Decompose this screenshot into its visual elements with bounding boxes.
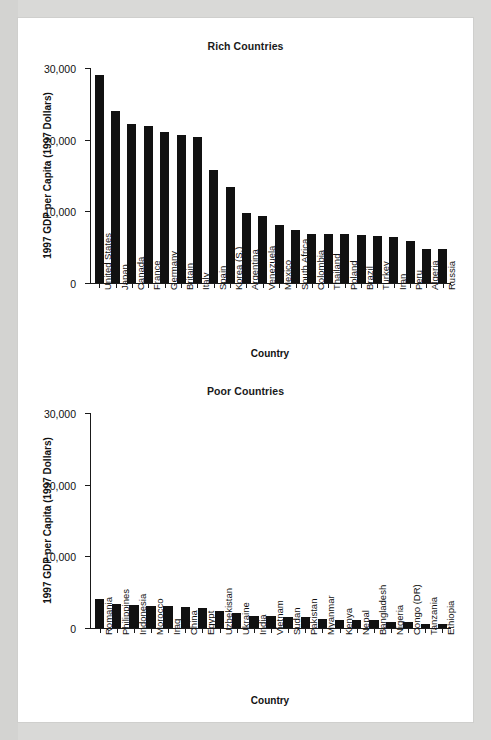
x-tick-label: Egypt [205,611,216,635]
x-tick [117,628,118,633]
x-tick-label: Germany [168,251,179,290]
x-tick [279,283,280,288]
x-tick [443,283,444,288]
x-tick [328,283,329,288]
x-tick [305,628,306,633]
x-tick-label: Myanmar [325,595,336,635]
y-tick: 20,000 [85,485,91,486]
x-tick-label: Mexico [282,260,293,290]
y-tick: 20,000 [85,140,91,141]
x-tick [374,628,375,633]
x-tick [181,283,182,288]
x-tick-label: Thailand [331,254,342,290]
x-tick [134,628,135,633]
x-tick-label: Argentina [249,249,260,290]
x-tick-label: Venezuela [266,246,277,290]
y-tick-label: 20,000 [44,135,76,147]
x-axis-label-poor: Country [90,695,450,706]
x-tick-label: Pakistan [308,599,319,635]
x-tick [202,628,203,633]
x-tick-label: Italy [200,273,211,290]
x-tick [254,628,255,633]
y-tick: 10,000 [85,556,91,557]
x-tick-label: China [188,610,199,635]
x-tick-label: Nepal [360,610,371,635]
x-tick-label: Nigeria [394,605,405,635]
x-tick-label: Philippines [120,589,131,635]
x-tick [271,628,272,633]
x-tick-label: United States [102,233,113,290]
x-tick-label: Turkey [380,261,391,290]
x-tick [148,283,149,288]
x-tick [296,283,297,288]
x-tick-label: Peru [413,270,424,290]
x-tick [185,628,186,633]
x-tick-label: Ukraine [240,602,251,635]
x-tick [340,628,341,633]
y-tick-label: 30,000 [44,408,76,420]
x-tick-label: Morocco [154,599,165,635]
x-tick [214,283,215,288]
y-tick: 10,000 [85,211,91,212]
x-tick [116,283,117,288]
x-tick [165,283,166,288]
x-tick-label: France [151,260,162,290]
x-tick [425,628,426,633]
figure-card: Rich Countries 1997 GDP per Capita (1997… [18,18,473,722]
x-axis-label-rich: Country [90,348,450,359]
y-tick-label: 10,000 [44,551,76,563]
bar [193,137,202,283]
x-tick-label: Bangladesh [377,585,388,635]
x-tick [99,283,100,288]
x-tick [100,628,101,633]
y-tick-label: 30,000 [44,63,76,75]
x-tick-label: Uzbekistan [223,588,234,635]
x-tick [168,628,169,633]
x-tick [410,283,411,288]
x-tick [377,283,378,288]
x-tick [263,283,264,288]
x-tick-label: Sudan [291,608,302,635]
x-tick-label: Japan [119,264,130,290]
x-tick-label: Britain [184,263,195,290]
x-tick [394,283,395,288]
y-tick-label: 20,000 [44,480,76,492]
figure-page: Rich Countries 1997 GDP per Capita (1997… [0,0,491,740]
y-tick: 30,000 [85,68,91,69]
y-tick: 30,000 [85,413,91,414]
x-tick [345,283,346,288]
chart-title-poor: Poor Countries [18,385,473,397]
x-tick-label: Poland [348,260,359,290]
x-tick-label: Tanzania [428,597,439,635]
x-tick [426,283,427,288]
x-tick-label: Iran [397,274,408,290]
x-tick-label: Algeria [429,260,440,290]
x-tick [220,628,221,633]
x-tick [312,283,313,288]
x-tick-label: Spain [217,266,228,290]
y-tick: 0 [85,628,91,629]
x-tick [361,283,362,288]
x-tick-label: Iraq [171,619,182,635]
x-tick [246,283,247,288]
x-tick [197,283,198,288]
chart-title-rich: Rich Countries [18,40,473,52]
y-tick: 0 [85,283,91,284]
x-tick-label: Indonesia [137,594,148,635]
x-tick [237,628,238,633]
x-tick-label: Korea (S.) [233,247,244,290]
x-tick [357,628,358,633]
x-tick [442,628,443,633]
y-axis-label-rich: 1997 GDP per Capita (1997 Dollars) [42,68,53,283]
y-tick-label: 10,000 [44,206,76,218]
x-tick-label: Ethiopia [445,601,456,635]
x-tick [408,628,409,633]
x-tick-label: Romania [103,597,114,635]
y-tick-label: 0 [70,623,76,635]
x-tick-label: Canada [135,257,146,290]
x-tick [288,628,289,633]
x-tick-label: Vietnam [274,600,285,635]
x-tick [322,628,323,633]
x-tick [391,628,392,633]
y-tick-label: 0 [70,278,76,290]
